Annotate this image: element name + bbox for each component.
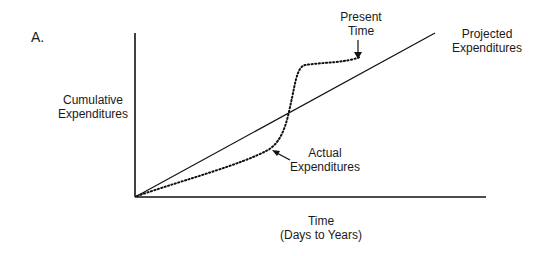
projected-line2: Expenditures [442, 41, 532, 55]
x-axis-label-line1: Time [266, 214, 376, 228]
projected-expenditures-label: Projected Expenditures [442, 27, 532, 55]
y-axis-label-line2: Expenditures [54, 107, 132, 121]
present-time-line2: Time [336, 24, 386, 38]
y-axis-label: Cumulative Expenditures [54, 93, 132, 121]
present-time-label: Present Time [336, 10, 386, 38]
actual-line2: Expenditures [285, 160, 365, 174]
x-axis-label: Time (Days to Years) [266, 214, 376, 242]
y-axis-label-line1: Cumulative [54, 93, 132, 107]
actual-expenditures-curve [137, 57, 360, 196]
actual-expenditures-arrowhead [272, 150, 280, 156]
actual-line1: Actual [285, 146, 365, 160]
x-axis-label-line2: (Days to Years) [266, 228, 376, 242]
present-time-line1: Present [336, 10, 386, 24]
projected-line1: Projected [442, 27, 532, 41]
actual-expenditures-label: Actual Expenditures [285, 146, 365, 174]
